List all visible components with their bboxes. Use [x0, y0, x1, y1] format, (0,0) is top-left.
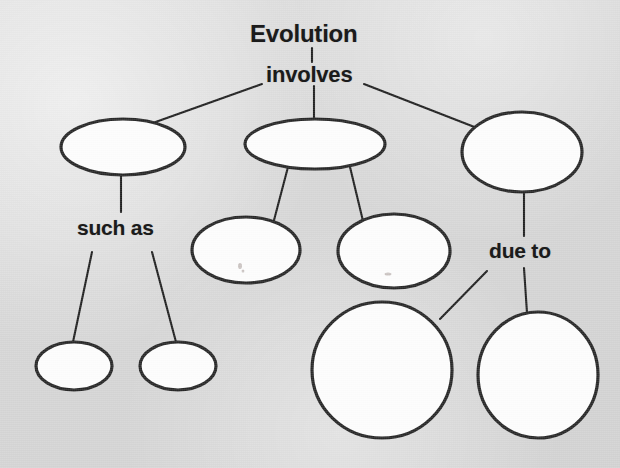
node-bottom-center[interactable] [312, 302, 452, 438]
connector-such-as-to-bottom-left-1 [73, 252, 92, 342]
node-right-top[interactable] [462, 112, 582, 192]
linking-phrase-such-as: such as [77, 217, 154, 238]
node-center-mid-left[interactable] [192, 217, 300, 283]
node-left-top[interactable] [61, 119, 185, 175]
smudge-mark-left-2 [242, 269, 245, 272]
node-bottom-left-1[interactable] [36, 342, 112, 390]
connector-due-to-to-bottom-right [524, 268, 527, 313]
node-center-top[interactable] [245, 119, 385, 169]
smudge-mark-right [385, 273, 392, 276]
smudge-mark-left [238, 263, 242, 269]
connector-such-as-to-bottom-left-2 [152, 252, 176, 342]
node-bottom-right[interactable] [478, 312, 598, 438]
connector-involves-to-right-node [364, 84, 477, 128]
connector-center-node-to-mid-left [273, 167, 288, 224]
connector-center-node-to-mid-right [350, 167, 363, 221]
concept-map-canvas: Evolution involves such as due to [0, 0, 620, 468]
node-bottom-left-2[interactable] [140, 342, 216, 390]
linking-phrase-involves: involves [266, 64, 352, 86]
connector-group [73, 48, 527, 342]
connector-involves-to-left-node [150, 84, 262, 124]
root-concept-label: Evolution [250, 22, 358, 46]
linking-phrase-due-to: due to [489, 240, 551, 261]
node-center-mid-right[interactable] [338, 214, 450, 288]
node-group [36, 112, 598, 438]
connector-due-to-to-bottom-center [440, 271, 487, 319]
